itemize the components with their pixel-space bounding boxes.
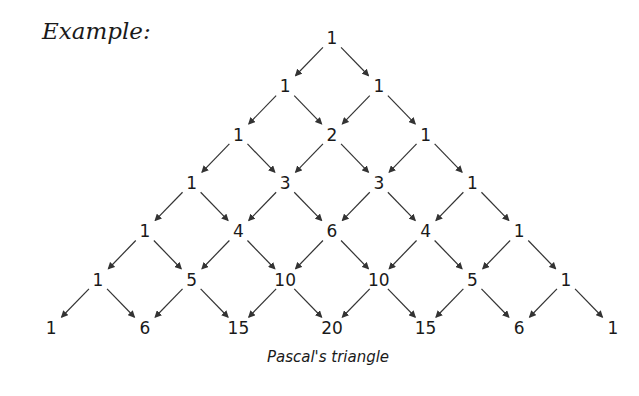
arrow-down-right-icon	[341, 241, 368, 269]
arrow-down-left-icon	[249, 289, 276, 317]
arrow-down-left-icon	[342, 289, 369, 317]
triangle-entry-r6-c3: 20	[321, 319, 343, 336]
arrow-down-left-icon	[436, 192, 463, 220]
arrow-down-right-icon	[247, 241, 274, 269]
triangle-entry-r4-c0: 1	[139, 223, 150, 240]
triangle-entry-r2-c2: 1	[420, 126, 431, 143]
arrow-down-right-icon	[388, 96, 415, 124]
triangle-entry-r6-c1: 6	[139, 319, 150, 336]
arrow-down-left-icon	[483, 241, 510, 269]
triangle-entry-r6-c6: 1	[607, 319, 618, 336]
arrow-down-left-icon	[202, 241, 229, 269]
triangle-entry-r5-c1: 5	[186, 271, 197, 288]
triangle-entry-r2-c1: 2	[327, 126, 338, 143]
arrow-down-left-icon	[296, 47, 323, 75]
arrow-down-right-icon	[201, 289, 228, 317]
arrow-down-left-icon	[389, 241, 416, 269]
triangle-entry-r3-c0: 1	[186, 174, 197, 191]
arrow-down-left-icon	[249, 192, 276, 220]
arrow-down-right-icon	[575, 289, 602, 317]
arrow-down-left-icon	[155, 289, 182, 317]
figure-caption: Pascal's triangle	[267, 348, 389, 366]
triangle-entry-r0-c0: 1	[327, 30, 338, 47]
arrow-down-right-icon	[341, 47, 368, 75]
triangle-entry-r6-c0: 1	[46, 319, 57, 336]
arrow-down-right-icon	[481, 289, 508, 317]
arrow-down-left-icon	[296, 144, 323, 172]
triangle-entry-r4-c3: 4	[420, 223, 431, 240]
triangle-entry-r5-c2: 10	[274, 271, 296, 288]
triangle-entry-r4-c1: 4	[233, 223, 244, 240]
triangle-entry-r1-c1: 1	[373, 78, 384, 95]
arrow-down-left-icon	[108, 241, 135, 269]
arrow-down-left-icon	[155, 192, 182, 220]
arrow-down-right-icon	[388, 192, 415, 220]
triangle-entry-r5-c3: 10	[368, 271, 390, 288]
arrow-down-right-icon	[388, 289, 415, 317]
arrow-layer	[0, 0, 639, 396]
arrow-down-right-icon	[154, 241, 181, 269]
arrow-down-left-icon	[249, 96, 276, 124]
triangle-entry-r6-c4: 15	[415, 319, 437, 336]
arrow-down-left-icon	[62, 289, 89, 317]
arrow-down-left-icon	[436, 289, 463, 317]
triangle-entry-r5-c0: 1	[93, 271, 104, 288]
triangle-entry-r1-c0: 1	[280, 78, 291, 95]
arrow-down-left-icon	[342, 192, 369, 220]
triangle-entry-r4-c2: 6	[327, 223, 338, 240]
arrow-down-right-icon	[107, 289, 134, 317]
arrow-down-right-icon	[481, 192, 508, 220]
triangle-entry-r3-c3: 1	[467, 174, 478, 191]
arrow-down-right-icon	[294, 192, 321, 220]
arrow-down-left-icon	[202, 144, 229, 172]
arrow-down-right-icon	[435, 241, 462, 269]
triangle-entry-r6-c5: 6	[514, 319, 525, 336]
triangle-entry-r4-c4: 1	[514, 223, 525, 240]
triangle-entry-r5-c5: 1	[561, 271, 572, 288]
arrow-down-left-icon	[342, 96, 369, 124]
arrow-down-right-icon	[435, 144, 462, 172]
arrow-down-right-icon	[528, 241, 555, 269]
arrow-down-right-icon	[294, 96, 321, 124]
arrow-down-left-icon	[296, 241, 323, 269]
triangle-entry-r3-c2: 3	[373, 174, 384, 191]
arrow-down-left-icon	[530, 289, 557, 317]
arrow-down-right-icon	[341, 144, 368, 172]
arrow-down-right-icon	[247, 144, 274, 172]
arrow-down-right-icon	[294, 289, 321, 317]
triangle-entry-r3-c1: 3	[280, 174, 291, 191]
arrow-down-left-icon	[389, 144, 416, 172]
arrow-down-right-icon	[201, 192, 228, 220]
triangle-entry-r5-c4: 5	[467, 271, 478, 288]
triangle-entry-r6-c2: 15	[228, 319, 250, 336]
triangle-entry-r2-c0: 1	[233, 126, 244, 143]
